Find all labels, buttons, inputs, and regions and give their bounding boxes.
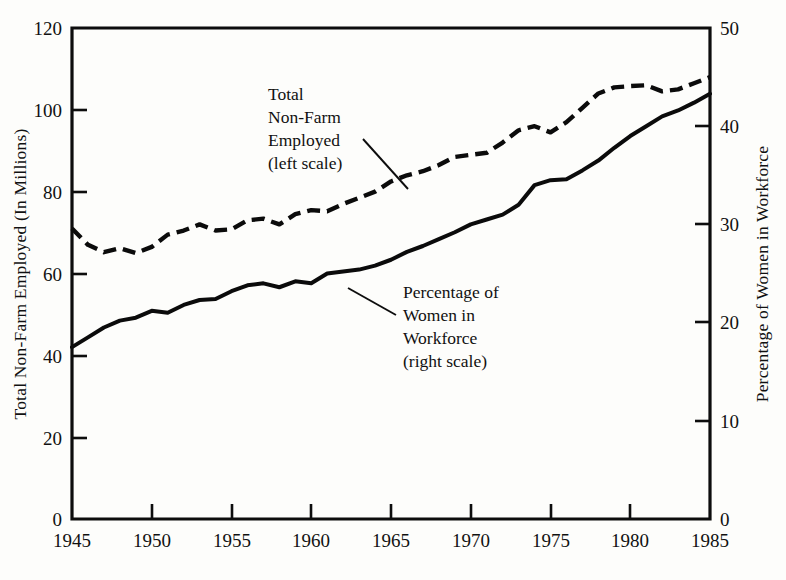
series-line-percentage-women-workforce [72,94,710,347]
left-tick-label-120: 120 [34,18,63,39]
x-tick-label-1960: 1960 [292,530,330,551]
annotation-percentage-women-line-4: (right scale) [403,351,487,371]
left-tick-label-80: 80 [43,182,62,203]
axes-frame [72,28,710,519]
annotation-percentage-women-line-2: Women in [403,305,475,325]
right-tick-label-0: 0 [720,509,730,530]
x-tick-label-1970: 1970 [452,530,490,551]
x-tick-label-1965: 1965 [372,530,410,551]
right-axis-title: Percentage of Women in Workforce [752,146,772,403]
left-tick-label-100: 100 [34,100,63,121]
annotation-total-nonfarm-line-2: Non-Farm [268,107,341,127]
chart-canvas: 120 100 80 60 40 20 0 50 40 30 20 10 0 [0,0,786,580]
annotation-percentage-women-line-1: Percentage of [403,282,499,302]
right-tick-label-40: 40 [720,116,739,137]
x-tick-label-1955: 1955 [213,530,251,551]
x-tick-label-1945: 1945 [53,530,91,551]
x-tick-label-1975: 1975 [532,530,570,551]
series-line-total-nonfarm-employed [72,77,710,253]
x-tick-label-1985: 1985 [691,530,729,551]
plot-border [72,28,710,519]
left-tick-label-60: 60 [43,264,62,285]
right-tick-label-50: 50 [720,18,739,39]
annotation-percentage-women-line-3: Workforce [403,328,478,348]
x-tick-label-1950: 1950 [133,530,171,551]
right-axis-tick-labels: 50 40 30 20 10 0 [720,18,739,530]
annotation-percentage-women: Percentage of Women in Workforce (right … [348,282,499,371]
x-axis-ticks [152,504,630,519]
right-tick-label-30: 30 [720,214,739,235]
left-axis-ticks [72,110,87,438]
right-axis-ticks [695,126,710,421]
x-axis-tick-labels: 1945 1950 1955 1960 1965 1970 1975 1980 … [53,530,729,551]
annotation-total-nonfarm-line-4: (left scale) [268,153,342,173]
chart-figure: 120 100 80 60 40 20 0 50 40 30 20 10 0 [0,0,786,580]
annotation-total-nonfarm: Total Non-Farm Employed (left scale) [268,84,408,189]
annotation-percentage-women-leader-line [348,288,396,315]
left-tick-label-0: 0 [53,509,63,530]
left-axis-tick-labels: 120 100 80 60 40 20 0 [34,18,63,530]
x-tick-label-1980: 1980 [611,530,649,551]
right-tick-label-10: 10 [720,411,739,432]
left-tick-label-40: 40 [43,346,62,367]
left-axis-title: Total Non-Farm Employed (In Millions) [10,129,30,420]
right-tick-label-20: 20 [720,312,739,333]
annotation-total-nonfarm-line-3: Employed [268,130,340,150]
annotation-total-nonfarm-leader-line [363,139,408,189]
left-tick-label-20: 20 [43,428,62,449]
annotation-total-nonfarm-line-1: Total [268,84,304,104]
